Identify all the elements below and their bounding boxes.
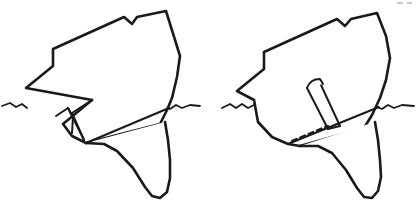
scan-speck-2 <box>407 2 412 4</box>
ship-bow-diagram-canvas <box>0 0 417 203</box>
scan-speck-1 <box>397 2 403 4</box>
